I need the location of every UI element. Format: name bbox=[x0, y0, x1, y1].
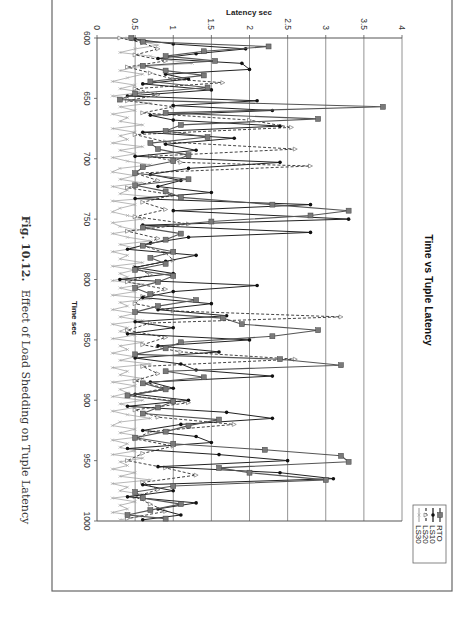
x-axis-title: Time sec bbox=[70, 301, 79, 336]
svg-text:Fig. 10.12. Effect of Lo: Fig. 10.12. Effect of Load Shedding on T… bbox=[19, 216, 32, 525]
y-axis-tick-labels: 00.511.522.533.54 bbox=[92, 18, 407, 30]
caption-label: Fig. 10.12. bbox=[19, 216, 32, 282]
legend: RTOLS10LS20LS30 bbox=[413, 505, 446, 563]
y-tick-label: 1.5 bbox=[206, 18, 216, 30]
x-tick-label: 900 bbox=[82, 393, 92, 407]
y-tick-label: 0 bbox=[92, 25, 102, 30]
chart: Latency sec 00.511.522.533.54 6006507007… bbox=[0, 0, 469, 635]
x-tick-label: 850 bbox=[82, 333, 92, 347]
y-tick-label: 0.5 bbox=[130, 18, 140, 30]
caption-text: Effect of Load Shedding on Tuple Latency bbox=[19, 290, 32, 525]
y-tick-label: 2.5 bbox=[283, 18, 293, 30]
y-axis-title: Latency sec bbox=[226, 8, 272, 17]
y-tick-label: 1 bbox=[168, 25, 178, 30]
legend-label: LS30 bbox=[414, 525, 423, 544]
series-rto bbox=[117, 36, 385, 522]
x-tick-label: 950 bbox=[82, 454, 92, 468]
y-tick-label: 4 bbox=[397, 25, 407, 30]
y-tick-label: 3 bbox=[321, 25, 331, 30]
y-tick-label: 2 bbox=[245, 25, 255, 30]
figure-caption: Fig. 10.12. Effect of Load Shedding on T… bbox=[19, 216, 32, 525]
chart-title: Time vs Tuple Latency bbox=[423, 234, 435, 346]
series-layer bbox=[111, 36, 386, 522]
x-axis-tick-labels: 6006507007508008509009501000 bbox=[82, 31, 97, 531]
x-tick-label: 600 bbox=[82, 31, 92, 45]
x-tick-label: 700 bbox=[82, 152, 92, 166]
x-tick-label: 750 bbox=[82, 212, 92, 226]
series-ls10 bbox=[118, 37, 350, 521]
x-tick-label: 800 bbox=[82, 272, 92, 286]
y-tick-label: 3.5 bbox=[359, 18, 369, 30]
x-tick-label: 650 bbox=[82, 91, 92, 105]
x-tick-label: 1000 bbox=[82, 512, 92, 531]
